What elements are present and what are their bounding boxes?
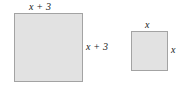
large-square-right-label: x + 3 bbox=[86, 42, 108, 52]
geometry-figure: x + 3 x + 3 x x bbox=[0, 0, 187, 90]
small-square-top-label: x bbox=[145, 20, 150, 30]
large-square-shape bbox=[14, 13, 83, 82]
small-square-right-label: x bbox=[171, 45, 176, 55]
small-square-shape bbox=[131, 31, 168, 71]
large-square-top-label: x + 3 bbox=[29, 2, 51, 12]
